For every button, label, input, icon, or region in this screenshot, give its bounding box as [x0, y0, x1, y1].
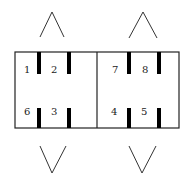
pin-label-2: 2 [51, 65, 57, 75]
pin-bar-3 [67, 108, 71, 128]
pin-bar-5 [157, 108, 161, 128]
pin-bar-2 [67, 52, 71, 74]
pin-bar-7 [127, 52, 131, 74]
pin-label-8: 8 [142, 65, 148, 75]
up-arrow-left-icon [40, 12, 64, 37]
pin-label-6: 6 [24, 107, 30, 117]
pin-bar-6 [37, 108, 41, 128]
down-arrow-left-icon [40, 146, 66, 173]
up-arrow-right-icon [129, 12, 157, 38]
pin-label-3: 3 [51, 107, 57, 117]
pin-label-7: 7 [112, 65, 118, 75]
pin-bar-4 [127, 108, 131, 128]
pin-label-4: 4 [111, 107, 117, 117]
pin-bar-1 [37, 52, 41, 74]
pin-label-1: 1 [24, 65, 30, 75]
down-arrow-right-icon [129, 146, 156, 173]
pin-label-5: 5 [141, 107, 147, 117]
pin-bar-8 [157, 52, 161, 74]
connector-diagram [0, 0, 192, 188]
